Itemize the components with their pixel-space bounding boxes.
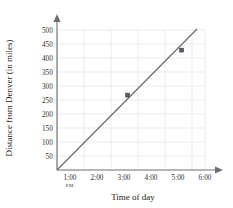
y-tick-label: 200 bbox=[42, 111, 53, 119]
x-tick-label: 5:00 bbox=[172, 174, 185, 182]
y-tick-label: 450 bbox=[42, 41, 53, 49]
y-tick-label: 300 bbox=[42, 83, 53, 91]
y-tick-label: 150 bbox=[42, 125, 53, 133]
x-tick-label: 3:00 bbox=[118, 174, 131, 182]
y-tick-label: 500 bbox=[42, 27, 53, 35]
x-tick-label: 2:00 bbox=[91, 174, 104, 182]
chart-container: 50 100 150 200 250 300 350 400 450 500 1… bbox=[0, 0, 233, 208]
line-chart: 50 100 150 200 250 300 350 400 450 500 1… bbox=[0, 0, 233, 208]
x-tick-sublabel-pm: P.M. bbox=[66, 183, 74, 188]
x-axis bbox=[57, 166, 223, 173]
y-tick-label: 400 bbox=[42, 55, 53, 63]
y-axis bbox=[53, 14, 60, 170]
data-point-marker bbox=[180, 48, 184, 52]
y-axis-arrow-icon bbox=[53, 14, 60, 22]
y-tick-label: 250 bbox=[42, 97, 53, 105]
x-tick-label: 6:00 bbox=[199, 174, 212, 182]
y-tick-label: 100 bbox=[42, 139, 53, 147]
x-axis-arrow-icon bbox=[215, 166, 223, 173]
x-tick-label: 4:00 bbox=[145, 174, 158, 182]
x-axis-title: Time of day bbox=[111, 192, 155, 202]
x-tick-label: 1:00 bbox=[64, 174, 77, 182]
y-tick-label: 50 bbox=[46, 153, 54, 161]
data-line bbox=[57, 29, 197, 170]
y-tick-label: 350 bbox=[42, 69, 53, 77]
y-axis-title: Distance from Denver (in miles) bbox=[4, 40, 14, 157]
x-tick-labels: 1:00 2:00 3:00 4:00 5:00 6:00 P.M. bbox=[64, 174, 212, 188]
data-point-marker bbox=[126, 93, 130, 97]
y-tick-labels: 50 100 150 200 250 300 350 400 450 500 bbox=[42, 27, 53, 161]
